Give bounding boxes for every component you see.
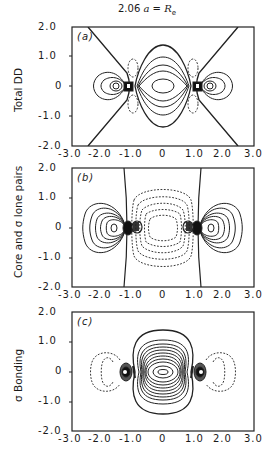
panel-a <box>72 27 254 146</box>
contour-plots <box>0 0 271 460</box>
panel-c <box>72 312 254 431</box>
panel-b <box>72 168 254 287</box>
